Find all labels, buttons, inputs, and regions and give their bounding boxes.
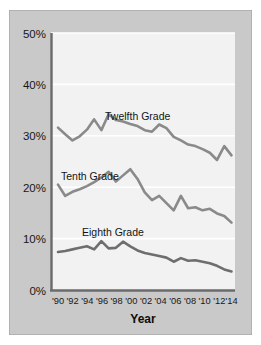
x-tick-label: '90 bbox=[52, 296, 64, 306]
chart-figure-frame: 50% 40% 30% 20% 10% 0% '90 '92 '94 '96 '… bbox=[9, 10, 252, 335]
y-tick-label: 0% bbox=[29, 285, 46, 297]
series-label-tenth-grade: Tenth Grade bbox=[61, 170, 119, 182]
x-axis-title: Year bbox=[130, 312, 156, 326]
x-tick-label: '02 bbox=[140, 296, 152, 306]
x-tick-label: '96 bbox=[96, 296, 108, 306]
x-tick-label: '94 bbox=[81, 296, 93, 306]
x-tick-label: '00 bbox=[125, 296, 137, 306]
x-tick-label: '12 bbox=[213, 296, 225, 306]
y-tick-label: 40% bbox=[23, 79, 46, 91]
y-tick-label: 10% bbox=[23, 233, 46, 245]
line-chart: 50% 40% 30% 20% 10% 0% '90 '92 '94 '96 '… bbox=[9, 10, 252, 335]
series-label-eighth-grade: Eighth Grade bbox=[82, 226, 144, 238]
x-tick-label: '08 bbox=[184, 296, 196, 306]
x-tick-label: '98 bbox=[111, 296, 123, 306]
x-tick-label: '92 bbox=[67, 296, 79, 306]
x-tick-label: '14 bbox=[225, 296, 237, 306]
x-tick-label: '10 bbox=[199, 296, 211, 306]
y-tick-label: 30% bbox=[23, 130, 46, 142]
x-tick-label: '04 bbox=[155, 296, 167, 306]
y-tick-label: 20% bbox=[23, 182, 46, 194]
x-tick-label: '06 bbox=[169, 296, 181, 306]
series-label-twelfth-grade: Twelfth Grade bbox=[105, 110, 171, 122]
y-tick-label: 50% bbox=[23, 28, 46, 40]
